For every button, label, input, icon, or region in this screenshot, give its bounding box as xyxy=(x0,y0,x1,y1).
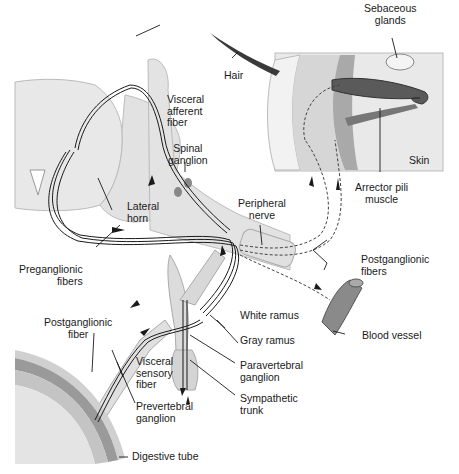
label-postganglionic-fiber: Postganglionic fiber xyxy=(44,317,112,340)
label-lateral-horn: Lateral horn xyxy=(127,201,159,224)
label-white-ramus: White ramus xyxy=(240,310,299,322)
label-hair: Hair xyxy=(224,70,243,82)
label-digestive-tube: Digestive tube xyxy=(132,451,199,463)
blood-vessel-shape xyxy=(322,279,363,335)
label-blood-vessel: Blood vessel xyxy=(362,330,422,342)
label-preganglionic-fibers: Preganglionic fibers xyxy=(19,264,83,287)
label-sebaceous-glands: Sebaceous glands xyxy=(364,3,417,26)
hair-shaft xyxy=(210,33,280,76)
label-prevertebral-ganglion: Prevertebral ganglion xyxy=(136,401,193,424)
label-paravertebral-ganglion: Paravertebral ganglion xyxy=(240,360,303,383)
label-peripheral-nerve: Peripheral nerve xyxy=(238,198,286,221)
label-postganglionic-fibers: Postganglionic fibers xyxy=(361,254,429,277)
label-visceral-afferent-fiber: Visceral afferent fiber xyxy=(167,94,204,129)
label-spinal-ganglion: Spinal ganglion xyxy=(168,143,208,166)
label-skin: Skin xyxy=(409,155,429,167)
label-visceral-sensory-fiber: Visceral sensory fiber xyxy=(136,356,173,391)
label-arrector-pili-muscle: Arrector pili muscle xyxy=(355,182,408,205)
label-gray-ramus: Gray ramus xyxy=(240,335,295,347)
label-sympathetic-trunk: Sympathetic trunk xyxy=(240,393,298,416)
